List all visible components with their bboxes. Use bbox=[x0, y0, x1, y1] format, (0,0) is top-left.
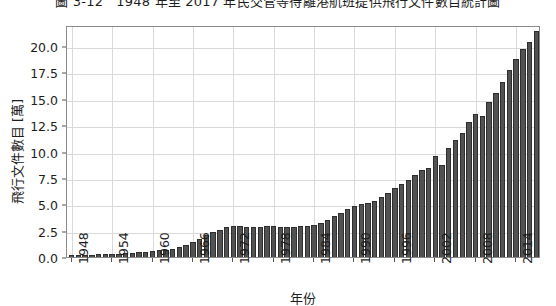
bar-1954 bbox=[109, 254, 114, 257]
bar-1958 bbox=[136, 252, 141, 257]
x-tick-mark-1996 bbox=[394, 258, 395, 262]
y-tick-label-20.0: 20.0 bbox=[30, 40, 58, 55]
x-tick-mark-1984 bbox=[313, 258, 314, 262]
bar-1995 bbox=[385, 193, 390, 257]
y-tick-label-0.0: 0.0 bbox=[38, 251, 58, 266]
x-tick-label-1948: 1948 bbox=[76, 232, 91, 264]
bar-1959 bbox=[143, 252, 148, 257]
x-tick-label-1984: 1984 bbox=[318, 232, 333, 264]
x-tick-mark-2008 bbox=[475, 258, 476, 262]
bar-1960 bbox=[150, 251, 155, 257]
bar-1952 bbox=[96, 254, 101, 257]
bar-1990 bbox=[352, 206, 357, 257]
bar-1966 bbox=[190, 242, 195, 257]
bar-1976 bbox=[258, 227, 263, 257]
y-tick-label-12.5: 12.5 bbox=[30, 119, 58, 134]
bar-2008 bbox=[473, 114, 478, 257]
chart-title: 圖 3-12 1948 年至 2017 年民交管等待離港航班提供飛行文件數目統計… bbox=[0, 0, 556, 10]
bar-2006 bbox=[460, 133, 465, 257]
y-tick-label-15.0: 15.0 bbox=[30, 92, 58, 107]
y-tick-label-10.0: 10.0 bbox=[30, 145, 58, 160]
x-tick-mark-1972 bbox=[232, 258, 233, 262]
x-tick-mark-1954 bbox=[111, 258, 112, 262]
bar-1989 bbox=[345, 209, 350, 257]
bar-2000 bbox=[419, 170, 424, 257]
y-tick-mark-20.0 bbox=[62, 47, 66, 48]
bar-2014 bbox=[513, 59, 518, 257]
y-tick-mark-5.0 bbox=[62, 205, 66, 206]
x-tick-label-1996: 1996 bbox=[399, 232, 414, 264]
bar-2002 bbox=[433, 156, 438, 257]
x-tick-mark-1948 bbox=[71, 258, 72, 262]
bar-1972 bbox=[231, 226, 236, 257]
y-tick-mark-7.5 bbox=[62, 178, 66, 179]
chart-figure: 圖 3-12 1948 年至 2017 年民交管等待離港航班提供飛行文件數目統計… bbox=[0, 0, 556, 306]
y-tick-label-5.0: 5.0 bbox=[38, 198, 58, 213]
x-tick-label-1978: 1978 bbox=[278, 232, 293, 264]
y-axis-label: 飛行文件數目 [萬] bbox=[7, 52, 26, 252]
x-tick-label-1990: 1990 bbox=[358, 232, 373, 264]
bar-2017 bbox=[534, 31, 539, 257]
x-axis-label: 年份 bbox=[66, 288, 540, 306]
x-tick-label-1960: 1960 bbox=[157, 232, 172, 264]
bar-1970 bbox=[217, 230, 222, 257]
plot-area bbox=[66, 26, 540, 258]
x-tick-mark-1990 bbox=[353, 258, 354, 262]
bar-2015 bbox=[520, 49, 525, 257]
x-tick-mark-1978 bbox=[273, 258, 274, 262]
bar-2001 bbox=[426, 168, 431, 257]
bar-1948 bbox=[69, 255, 74, 257]
x-tick-label-1954: 1954 bbox=[116, 232, 131, 264]
bar-1982 bbox=[298, 226, 303, 257]
y-tick-mark-12.5 bbox=[62, 126, 66, 127]
bar-1988 bbox=[338, 213, 343, 257]
y-tick-mark-10.0 bbox=[62, 152, 66, 153]
bar-2007 bbox=[466, 122, 471, 258]
bar-1978 bbox=[271, 226, 276, 257]
x-tick-mark-1966 bbox=[192, 258, 193, 262]
bar-1953 bbox=[103, 254, 108, 257]
x-tick-mark-2014 bbox=[515, 258, 516, 262]
x-tick-label-2002: 2002 bbox=[439, 232, 454, 264]
bar-series bbox=[67, 27, 539, 257]
bar-2013 bbox=[507, 70, 512, 257]
bar-1983 bbox=[305, 226, 310, 257]
bar-1977 bbox=[264, 226, 269, 257]
y-tick-label-2.5: 2.5 bbox=[38, 224, 58, 239]
bar-1996 bbox=[392, 188, 397, 257]
bar-1965 bbox=[183, 245, 188, 257]
y-tick-mark-2.5 bbox=[62, 231, 66, 232]
y-tick-label-17.5: 17.5 bbox=[30, 66, 58, 81]
x-tick-mark-1960 bbox=[152, 258, 153, 262]
x-tick-label-2008: 2008 bbox=[480, 232, 495, 264]
y-tick-label-7.5: 7.5 bbox=[38, 171, 58, 186]
x-tick-label-1972: 1972 bbox=[237, 232, 252, 264]
bar-2016 bbox=[527, 42, 532, 257]
bar-1984 bbox=[311, 225, 316, 257]
bar-1994 bbox=[379, 197, 384, 257]
y-tick-mark-17.5 bbox=[62, 73, 66, 74]
bar-2012 bbox=[500, 82, 505, 257]
y-tick-mark-15.0 bbox=[62, 99, 66, 100]
x-tick-label-1966: 1966 bbox=[197, 232, 212, 264]
x-tick-label-2014: 2014 bbox=[520, 232, 535, 264]
bar-1971 bbox=[224, 227, 229, 257]
bar-1964 bbox=[177, 247, 182, 257]
x-tick-mark-2002 bbox=[434, 258, 435, 262]
